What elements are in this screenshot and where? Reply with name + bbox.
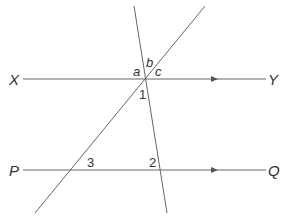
label-q: Q — [268, 162, 280, 179]
angle-label-a: a — [133, 64, 140, 79]
arrow-icon-pq — [211, 167, 218, 173]
angle-label-c: c — [155, 64, 162, 79]
diagram-canvas: X Y P Q a b c 1 2 3 — [0, 0, 283, 221]
arrow-icon-xy — [211, 76, 218, 82]
transversal-steep — [134, 6, 167, 213]
diagram-svg: X Y P Q a b c 1 2 3 — [0, 0, 283, 221]
angle-label-2: 2 — [149, 155, 156, 170]
label-p: P — [9, 162, 19, 179]
angle-label-1: 1 — [139, 87, 146, 102]
angle-label-3: 3 — [87, 155, 94, 170]
label-y: Y — [268, 71, 279, 88]
angle-label-b: b — [146, 55, 153, 70]
label-x: X — [8, 71, 20, 88]
transversal-diagonal — [35, 6, 205, 213]
